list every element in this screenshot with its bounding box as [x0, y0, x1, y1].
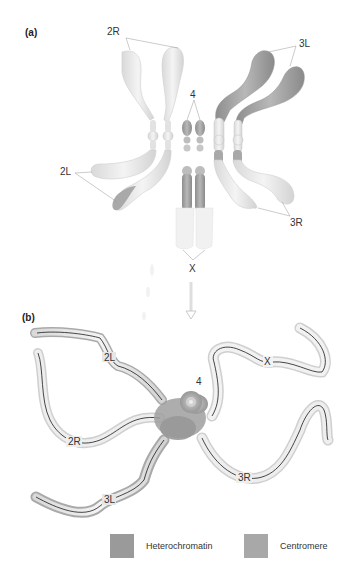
chromocenter: 4	[154, 376, 208, 440]
legend-centromere-label: Centromere	[280, 541, 328, 551]
label-X-b: X	[264, 356, 271, 367]
label-4-b: 4	[196, 376, 202, 387]
faint-ghost-marks	[142, 264, 154, 320]
chromosome-2L-pair: 2L	[60, 150, 171, 210]
centromere-swatch	[244, 534, 268, 558]
legend-heterochromatin-label: Heterochromatin	[146, 541, 213, 551]
label-2R-b: 2R	[68, 436, 81, 447]
legend-heterochromatin: Heterochromatin	[110, 534, 213, 558]
polytene-arm-3L: 3L	[36, 440, 164, 512]
chromosome-4-pair: 4	[182, 89, 205, 152]
chromosome-2-centromere-beads	[148, 120, 173, 150]
polytene-arm-2L: 2L	[35, 332, 162, 400]
transition-arrow	[186, 282, 196, 319]
polytene-arm-X: X	[212, 328, 325, 416]
chromosome-2R-pair: 2R	[107, 26, 184, 122]
panel-b-label: (b)	[22, 312, 35, 323]
label-2R: 2R	[107, 26, 120, 37]
polytene-arm-3R: 3R	[202, 406, 328, 483]
chromosome-3R-pair: 3R	[214, 160, 303, 228]
chromosome-3-centromere-beads	[214, 118, 243, 164]
label-2L: 2L	[60, 166, 72, 177]
polytene-arm-2R: 2R	[38, 353, 160, 447]
heterochromatin-swatch	[110, 534, 134, 558]
chromosome-diagram: (a) 2R 2L 4	[0, 0, 359, 572]
label-2L-b: 2L	[104, 352, 116, 363]
label-3R: 3R	[290, 217, 303, 228]
chromosome-3L-pair: 3L	[216, 38, 311, 124]
label-3L-b: 3L	[104, 494, 116, 505]
panel-a-label: (a)	[25, 27, 37, 38]
label-4-a: 4	[190, 89, 196, 100]
label-3L: 3L	[299, 38, 311, 49]
chromosome-X-pair: X	[176, 166, 213, 274]
label-3R-b: 3R	[238, 472, 251, 483]
label-X-a: X	[189, 263, 196, 274]
legend-centromere: Centromere	[244, 534, 328, 558]
